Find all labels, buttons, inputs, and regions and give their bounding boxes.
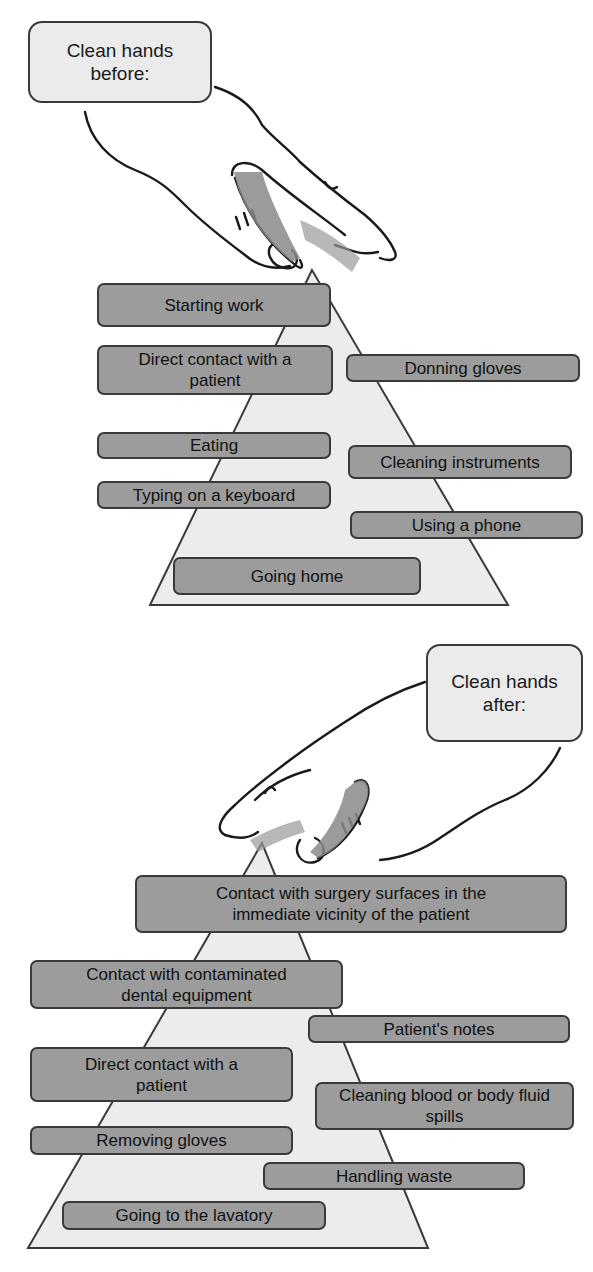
- label-contact-surgery-surfaces: Contact with surgery surfaces in the imm…: [135, 875, 567, 933]
- label-going-to-lavatory: Going to the lavatory: [62, 1201, 326, 1230]
- label-direct-contact-patient-after: Direct contact with a patient: [30, 1047, 293, 1102]
- callout-text: Clean hands before:: [60, 39, 180, 85]
- label-starting-work: Starting work: [97, 283, 331, 327]
- finger-shadow-top: [234, 172, 300, 262]
- finger-shadow-top-2: [300, 220, 360, 272]
- callout-clean-hands-after: Clean hands after:: [426, 644, 583, 742]
- label-handling-waste: Handling waste: [263, 1162, 525, 1190]
- label-cleaning-blood-spills: Cleaning blood or body fluid spills: [315, 1082, 574, 1130]
- label-cleaning-instruments: Cleaning instruments: [348, 445, 572, 479]
- label-donning-gloves: Donning gloves: [346, 354, 580, 382]
- label-patients-notes: Patient's notes: [308, 1015, 570, 1043]
- label-contact-contaminated-equipment: Contact with contaminated dental equipme…: [30, 960, 343, 1009]
- callout-text: Clean hands after:: [448, 670, 561, 716]
- label-typing-keyboard: Typing on a keyboard: [97, 481, 331, 509]
- label-eating: Eating: [97, 432, 331, 459]
- callout-clean-hands-before: Clean hands before:: [28, 21, 212, 103]
- label-using-phone: Using a phone: [350, 511, 583, 539]
- label-direct-contact-patient: Direct contact with a patient: [97, 345, 333, 395]
- label-going-home: Going home: [173, 557, 421, 595]
- label-removing-gloves: Removing gloves: [30, 1126, 293, 1155]
